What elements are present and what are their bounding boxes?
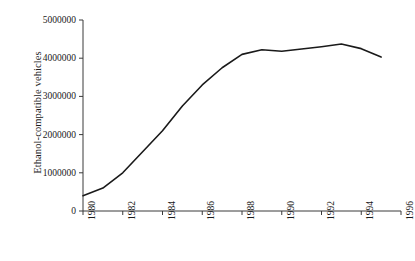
x-axis-tick-label: 1982 xyxy=(127,201,137,220)
x-axis-tick-label: 1980 xyxy=(87,201,97,220)
x-axis-tick-label: 1996 xyxy=(405,201,415,220)
chart-figure: Ethanol-compatible vehicles 010000002000… xyxy=(0,0,415,261)
y-axis-tick-label: 5000000 xyxy=(43,15,76,25)
y-axis-tick-label: 2000000 xyxy=(43,130,76,140)
y-axis-tick-label: 4000000 xyxy=(43,53,76,63)
x-axis-tick-label: 1986 xyxy=(206,201,216,220)
data-series-line xyxy=(83,44,381,196)
x-axis-tick-label: 1992 xyxy=(326,201,336,220)
axes-group xyxy=(79,20,401,215)
y-axis-tick-label: 3000000 xyxy=(43,91,76,101)
y-axis-tick-label: 1000000 xyxy=(43,168,76,178)
x-axis-tick-label: 1984 xyxy=(167,201,177,220)
x-axis-tick-label: 1994 xyxy=(365,201,375,220)
y-axis-tick-label: 0 xyxy=(71,206,76,216)
y-axis-title: Ethanol-compatible vehicles xyxy=(30,17,46,208)
x-axis-tick-label: 1990 xyxy=(286,201,296,220)
y-axis-ticks xyxy=(79,20,83,211)
x-axis-tick-label: 1988 xyxy=(246,201,256,220)
